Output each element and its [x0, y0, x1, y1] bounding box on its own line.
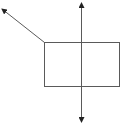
- diagram-svg: [0, 0, 122, 124]
- diagonal-arrow: [2, 9, 45, 43]
- diagram-canvas: [0, 0, 122, 124]
